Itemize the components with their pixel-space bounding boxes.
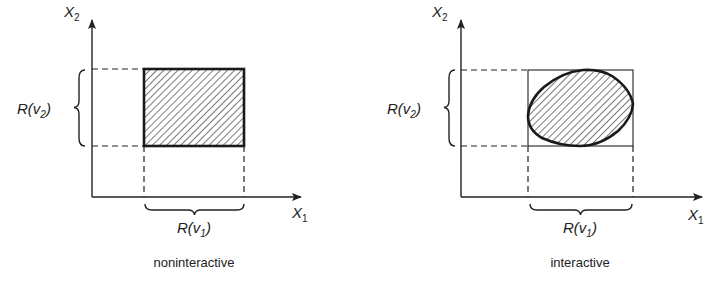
- caption-interactive: interactive: [550, 255, 609, 270]
- range-y-brace: [444, 70, 455, 146]
- noninteractive-diagram: X2 X1 R(v2) R(v1) noninteractive: [17, 3, 308, 270]
- caption-noninteractive: noninteractive: [154, 255, 235, 270]
- y-axis-label: X2: [63, 3, 80, 23]
- range-y-label: R(v2): [387, 100, 421, 120]
- diagram-canvas: X2 X1 R(v2) R(v1) noninteractive X2 X1 R…: [0, 0, 713, 283]
- range-y-label: R(v2): [17, 100, 51, 120]
- range-x-brace: [145, 204, 244, 215]
- interactive-diagram: X2 X1 R(v2) R(v1) interactive: [387, 3, 704, 270]
- hatched-oval-region: [528, 70, 633, 146]
- x-axis-label: X1: [291, 204, 308, 224]
- range-x-label: R(v1): [177, 219, 211, 239]
- hatched-rectangle-region: [144, 69, 244, 146]
- y-axis-label: X2: [431, 3, 448, 23]
- x-axis-label: X1: [687, 206, 704, 226]
- range-x-label: R(v1): [563, 219, 597, 239]
- range-y-brace: [74, 70, 85, 146]
- range-x-brace: [530, 204, 632, 215]
